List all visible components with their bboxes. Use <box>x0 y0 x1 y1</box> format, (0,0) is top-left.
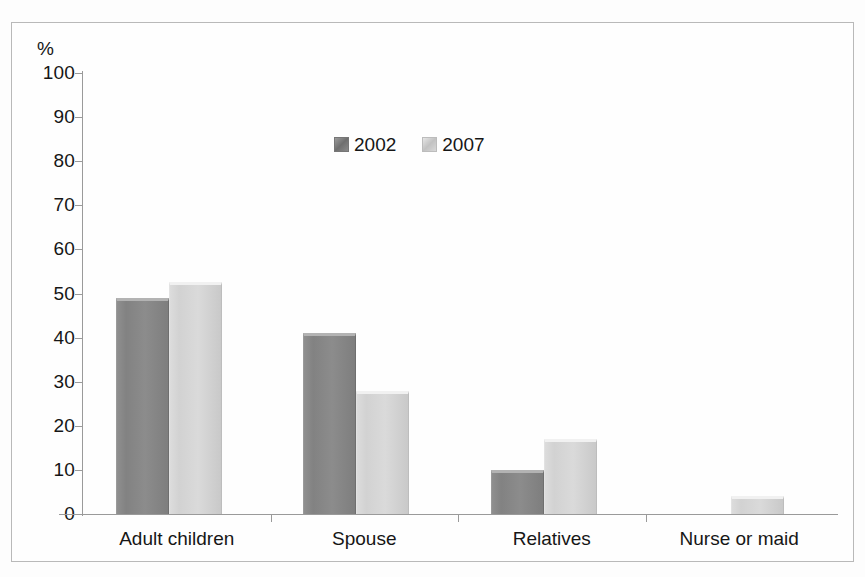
y-tick-label-50: 50 <box>27 284 75 303</box>
y-tick-label-10: 10 <box>27 460 75 479</box>
x-tick-label-relatives: Relatives <box>458 528 646 549</box>
y-tick-label-40: 40 <box>27 328 75 347</box>
x-tick-label-nurse-or-maid: Nurse or maid <box>646 528 834 549</box>
plot-area <box>83 73 833 514</box>
x-tick-label-adult-children: Adult children <box>83 528 271 549</box>
x-axis-line <box>59 514 838 515</box>
y-tick-label-30: 30 <box>27 372 75 391</box>
y-tick-label-80: 80 <box>27 151 75 170</box>
bar-nurse-or-maid-2007 <box>731 496 784 514</box>
y-tick-label-20: 20 <box>27 416 75 435</box>
x-tick-label-spouse: Spouse <box>271 528 459 549</box>
scanned-page: % 1009080706050403020100 2002 2007 Adult… <box>0 0 865 577</box>
bar-adult-children-2002 <box>116 298 169 514</box>
y-tick-label-100: 100 <box>27 63 75 82</box>
bar-adult-children-2007 <box>169 282 222 514</box>
y-axis: 1009080706050403020100 <box>1 1 75 577</box>
bar-spouse-2002 <box>303 333 356 514</box>
y-tick-label-70: 70 <box>27 195 75 214</box>
y-tick-label-90: 90 <box>27 107 75 126</box>
bar-relatives-2007 <box>544 439 597 514</box>
chart-frame: % 1009080706050403020100 2002 2007 Adult… <box>11 22 854 562</box>
x-separator-tick-3 <box>646 514 647 522</box>
x-separator-tick-2 <box>458 514 459 522</box>
x-separator-tick-1 <box>271 514 272 522</box>
bar-spouse-2007 <box>356 391 409 514</box>
y-tick-label-60: 60 <box>27 239 75 258</box>
bar-relatives-2002 <box>491 470 544 514</box>
